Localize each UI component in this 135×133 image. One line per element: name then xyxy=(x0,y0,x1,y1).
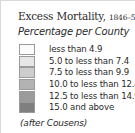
color-swatch xyxy=(19,102,35,113)
legend-title-text: Excess Mortality, xyxy=(18,10,106,22)
legend-subtitle: Percentage per County xyxy=(18,26,129,37)
legend-item-label: 10.0 to less than 12.4 xyxy=(49,78,135,90)
map-legend: Excess Mortality, 1846–50 Percentage per… xyxy=(0,0,135,133)
legend-item-label: 12.5 to less than 14.9 xyxy=(49,90,135,102)
legend-title-years: 1846–50 xyxy=(109,13,135,22)
color-swatch xyxy=(19,67,35,78)
legend-item-label: less than 4.9 xyxy=(49,43,102,55)
color-swatch xyxy=(19,79,35,90)
color-swatch xyxy=(19,44,35,55)
legend-title: Excess Mortality, 1846–50 xyxy=(18,10,135,22)
legend-item: 15.0 and above xyxy=(19,102,134,114)
legend-item-label: 15.0 and above xyxy=(49,101,114,113)
color-swatch xyxy=(19,91,35,102)
legend-item-label: 5.0 to less than 7.4 xyxy=(49,55,129,67)
color-swatch xyxy=(19,56,35,67)
legend-items: less than 4.9 5.0 to less than 7.4 7.5 t… xyxy=(19,44,134,114)
source-credit: (after Cousens) xyxy=(20,118,87,128)
legend-item-label: 7.5 to less than 9.9 xyxy=(49,66,129,78)
